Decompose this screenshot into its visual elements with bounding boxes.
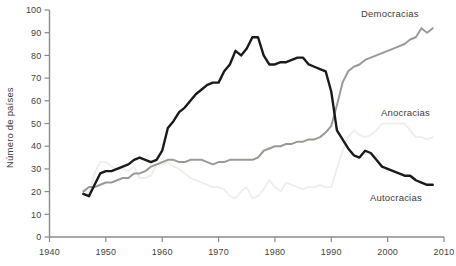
series-label-democracias: Democracias (361, 8, 419, 19)
series-line-anocracias (83, 124, 432, 199)
y-tick-label: 30 (31, 164, 41, 174)
y-tick-label: 0 (36, 232, 41, 242)
y-axis-title: Número de países (4, 87, 15, 168)
chart-container: 0102030405060708090100 19401950196019701… (0, 0, 456, 266)
y-tick-label: 100 (26, 5, 42, 15)
x-tick-label: 1950 (95, 247, 116, 257)
x-tick-label: 1970 (208, 247, 229, 257)
y-tick-label: 70 (31, 73, 41, 83)
y-axis-ticks: 0102030405060708090100 (26, 5, 50, 242)
y-tick-label: 50 (31, 119, 41, 129)
y-tick-label: 90 (31, 28, 41, 38)
x-tick-label: 1980 (265, 247, 286, 257)
y-tick-label: 60 (31, 96, 41, 106)
x-tick-label: 1990 (321, 247, 342, 257)
x-tick-label: 1940 (39, 247, 60, 257)
x-axis-ticks: 19401950196019701980199020002010 (39, 237, 454, 257)
series-label-anocracias: Anocracias (381, 107, 430, 118)
x-tick-label: 2010 (434, 247, 455, 257)
series-label-autocracias: Autocracias (370, 192, 422, 203)
y-tick-label: 80 (31, 51, 41, 61)
y-tick-label: 40 (31, 141, 41, 151)
x-tick-label: 1960 (152, 247, 173, 257)
x-tick-label: 2000 (377, 247, 398, 257)
y-tick-label: 10 (31, 210, 41, 220)
y-tick-label: 20 (31, 187, 41, 197)
line-chart-plot: 0102030405060708090100 19401950196019701… (0, 0, 456, 266)
